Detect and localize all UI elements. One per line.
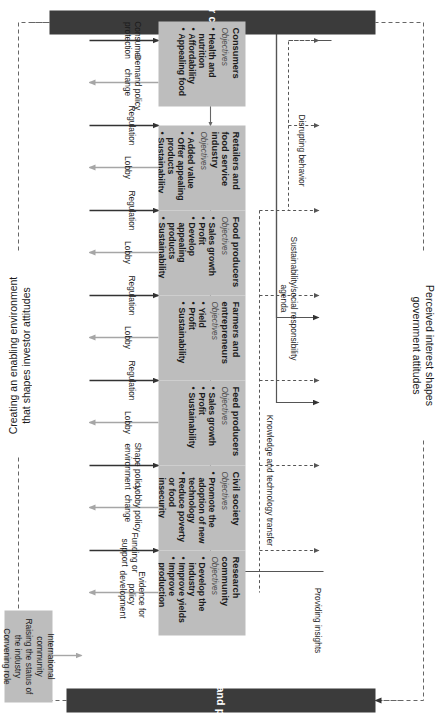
objectives-label: Objectives: [208, 301, 218, 374]
caption-bottom-line1: Creating an enabling environment: [6, 250, 19, 460]
label-retailers-to-gov: Lobby: [121, 140, 131, 194]
caption-top-line2: government attitudes: [410, 250, 423, 440]
objective-item: Profit: [197, 216, 207, 289]
objectives-list: Promote the adoption of new technology R…: [158, 471, 217, 544]
objective-item: Appealing food: [177, 27, 187, 100]
objectives-label: Objectives: [219, 386, 229, 459]
label-consumers-to-gov: Demand policy change: [122, 52, 141, 112]
actor-title: Farmers and entrepreneurs: [219, 301, 240, 374]
actor-title: Research community: [219, 556, 240, 629]
actor-title: Civil society: [230, 471, 241, 544]
objective-item: Promote the adoption of new technology: [187, 471, 217, 544]
diagram-caption-top: Perceived interest shapes government att…: [410, 250, 435, 440]
objectives-label: Objectives: [219, 216, 229, 289]
caption-top-line1: Perceived interest shapes: [423, 250, 436, 440]
objective-item: Added value: [186, 131, 196, 204]
objectives-list: Sales growth Profit Develop appealing pr…: [158, 216, 217, 289]
caption-bottom-line2: that shapes investor attitudes: [19, 250, 32, 460]
objective-item: Sustainability: [176, 301, 186, 374]
actor-box-food-producers[interactable]: Food producers Objectives Sales growth P…: [158, 210, 245, 295]
label-food-producers-to-gov: Lobby: [121, 225, 131, 279]
diagram-caption-bottom: Creating an enabling environment that sh…: [6, 250, 31, 460]
objective-item: Offer appealing products: [166, 131, 186, 204]
objective-item: Profit: [197, 386, 207, 459]
note-line-2: Raising the status of the industry: [12, 614, 34, 698]
label-providing-insights: Providing insights: [311, 585, 321, 655]
label-sustainability-agenda: Sustainability/social responsibility age…: [278, 230, 297, 366]
objective-item: Improve yields: [176, 556, 186, 629]
objective-item: Sales growth: [207, 216, 217, 289]
actor-box-research-community[interactable]: Research community Objectives Develop th…: [158, 550, 245, 635]
actor-title: Feed producers: [230, 386, 241, 459]
objective-item: Sustainability: [158, 216, 167, 289]
note-box-international-community: International community Raising the stat…: [4, 610, 52, 702]
objectives-label: Objectives: [219, 27, 229, 100]
label-farmers-to-gov: Lobby: [121, 310, 131, 364]
objectives-label: Objectives: [208, 556, 218, 629]
actor-box-feed-producers[interactable]: Feed producers Objectives Sales growth P…: [158, 380, 245, 465]
objectives-list: Health and nutrition Affordability Appea…: [177, 27, 217, 100]
actor-title: Retailers and food service industry: [209, 131, 241, 204]
label-disrupting-behavior: Disrupting behavior: [295, 90, 305, 210]
objective-item: Sales growth: [207, 386, 217, 459]
objectives-list: Develop the industry Improve yields Impr…: [158, 556, 206, 629]
label-civil-society-to-gov: Lobby policy change: [122, 480, 141, 536]
actor-box-civil-society[interactable]: Civil society Objectives Promote the ado…: [158, 465, 245, 550]
actor-title: Food producers: [230, 216, 241, 289]
objectives-label: Objectives: [219, 471, 229, 544]
label-feed-producers-to-gov: Lobby: [121, 395, 131, 449]
diagram-frame: Perceived interest shapes government att…: [0, 0, 441, 724]
objectives-list: Added value Offer appealing products Sus…: [158, 131, 196, 204]
objective-item: Yield: [196, 301, 206, 374]
diagram-canvas: Perceived interest shapes government att…: [0, 0, 441, 724]
objective-item: Improve production systems: [158, 556, 176, 629]
objective-item: Develop the industry: [186, 556, 206, 629]
label-research-to-gov: Evidence for policy development: [116, 564, 145, 624]
objectives-list: Yield Profit Sustainability: [176, 301, 206, 374]
objectives-label: Objectives: [198, 131, 208, 204]
objective-item: Develop appealing products: [167, 216, 197, 289]
pillar-government: Government and policy makers: [66, 688, 375, 712]
objectives-list: Sales growth Profit Sustainability: [187, 386, 217, 459]
objective-item: Sustainability: [187, 386, 197, 459]
objective-item: Profit: [186, 301, 196, 374]
objective-item: Reduce poverty or food insecurity: [158, 471, 187, 544]
label-knowledge-technology-transfer: Knowledge and technology transfer: [263, 400, 273, 560]
note-line-3: Convening role: [1, 628, 12, 684]
objective-item: Sustainability: [158, 131, 166, 204]
note-line-1: International community: [34, 614, 56, 698]
actor-box-retailers-food-service[interactable]: Retailers and food service industry Obje…: [158, 125, 245, 210]
actor-box-farmers-entrepreneurs[interactable]: Farmers and entrepreneurs Objectives Yie…: [158, 295, 245, 380]
objective-item: Affordability: [187, 27, 197, 100]
actor-box-consumers[interactable]: Consumers Objectives Health and nutritio…: [158, 21, 245, 106]
actor-title: Consumers: [230, 27, 241, 100]
objective-item: Health and nutrition: [197, 27, 217, 100]
